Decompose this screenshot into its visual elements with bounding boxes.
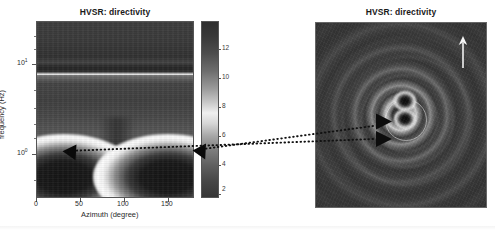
x-tick-label-50: 50 xyxy=(75,200,83,207)
colorbar-tick-12 xyxy=(218,49,221,50)
colorbar-label-6: 6 xyxy=(222,131,226,138)
colorbar-tick-6 xyxy=(218,136,221,137)
y-tick-minor-c xyxy=(34,90,37,91)
y-tick-label-1e0: 100 xyxy=(17,149,28,156)
x-tick-label-0: 0 xyxy=(34,200,38,207)
y-tick-mantissa-1e0: 10 xyxy=(17,149,25,156)
y-axis-label: frequency (Hz) xyxy=(0,90,6,139)
left-panel-axes[interactable] xyxy=(36,21,194,198)
high-amplitude-band xyxy=(37,72,193,76)
colorbar-label-8: 8 xyxy=(222,102,226,109)
y-tick-label-1e1: 101 xyxy=(17,59,28,66)
y-tick-minor-g xyxy=(34,180,37,181)
colorbar-tick-4 xyxy=(218,165,221,166)
left-panel-title: HVSR: directivity xyxy=(36,7,194,17)
x-axis-label: Azimuth (degree) xyxy=(81,210,139,219)
y-tick-exponent-1e0: 0 xyxy=(25,147,28,153)
y-tick-exponent-1e1: 1 xyxy=(25,57,28,63)
y-tick-mantissa-1e1: 10 xyxy=(17,59,25,66)
y-tick-1e0 xyxy=(32,154,36,155)
colorbar-tick-8 xyxy=(218,107,221,108)
polar-lobe-north xyxy=(394,91,416,111)
y-tick-minor-b xyxy=(34,49,37,50)
colorbar-tick-10 xyxy=(218,78,221,79)
colorbar[interactable] xyxy=(201,21,219,198)
right-panel-title: HVSR: directivity xyxy=(315,7,487,17)
x-tick-label-100: 100 xyxy=(117,200,129,207)
colorbar-label-10: 10 xyxy=(222,73,229,80)
y-tick-1e1 xyxy=(32,64,36,65)
x-tick-label-150: 150 xyxy=(161,200,173,207)
y-tick-minor-a xyxy=(34,36,37,37)
north-arrow-icon xyxy=(458,35,468,69)
scan-artifact xyxy=(0,226,495,230)
y-tick-minor-d xyxy=(34,108,37,109)
colorbar-label-12: 12 xyxy=(222,44,229,51)
y-tick-minor-f xyxy=(34,138,37,139)
colorbar-label-2: 2 xyxy=(222,185,226,192)
right-panel-axes[interactable] xyxy=(315,22,487,208)
y-tick-minor-e xyxy=(34,124,37,125)
polar-lobe-south xyxy=(394,109,416,129)
colorbar-label-4: 4 xyxy=(222,160,226,167)
figure-container: HVSR: directivity 0 50 100 150 101 100 A… xyxy=(0,0,495,235)
low-amplitude-band xyxy=(37,64,193,70)
colorbar-tick-2 xyxy=(218,194,221,195)
